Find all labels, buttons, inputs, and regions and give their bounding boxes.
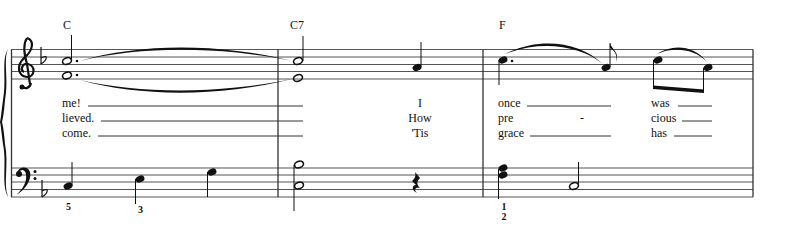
lyric-m3a-verse1: once bbox=[498, 97, 521, 109]
m3-treble-beamed-eighths bbox=[653, 55, 714, 93]
lyric-m3a-verse3: grace bbox=[498, 127, 524, 139]
lyric-m3b-verse2: cious bbox=[651, 112, 676, 124]
bass-staff bbox=[11, 168, 753, 197]
lyric-m3b-verse1: was bbox=[651, 97, 670, 109]
lyric-m2-verse2: How bbox=[408, 112, 431, 124]
fingering-2: 2 bbox=[499, 212, 509, 222]
chord-symbol-m3: F bbox=[499, 19, 506, 31]
bass-clef-icon bbox=[16, 168, 37, 195]
lyric-m1-verse2: lieved. bbox=[62, 112, 94, 124]
lyric-hyphen: - bbox=[580, 112, 584, 124]
lyric-m3a-verse2: pre bbox=[498, 112, 513, 124]
m1-bass-note-c bbox=[63, 162, 74, 191]
m1-treble-chord bbox=[62, 35, 79, 80]
m3-bass-half-note bbox=[569, 162, 580, 191]
tie-lower bbox=[80, 79, 292, 93]
m2-treble-chord bbox=[293, 36, 304, 83]
fingering-3: 3 bbox=[138, 205, 143, 215]
treble-staff bbox=[11, 50, 753, 80]
notation-canvas bbox=[0, 0, 804, 249]
slur-1 bbox=[505, 43, 603, 64]
grand-staff-brace bbox=[0, 49, 8, 197]
m3-bass-quarter-chord bbox=[498, 163, 509, 199]
lyric-m2-verse3: 'Tis bbox=[411, 127, 428, 139]
lyric-m1-verse1: me! bbox=[62, 97, 81, 109]
lyric-m3b-verse3: has bbox=[651, 127, 667, 139]
lyric-extenders bbox=[88, 106, 712, 136]
sheet-music-score: C C7 F me! lieved. come. I How 'Tis once… bbox=[0, 0, 804, 249]
fingering-stack-m3: 1 2 bbox=[499, 202, 509, 222]
m3-treble-eighth bbox=[601, 43, 618, 72]
fingering-5: 5 bbox=[66, 202, 71, 212]
chord-symbol-m2: C7 bbox=[290, 19, 304, 31]
treble-clef-icon bbox=[19, 38, 34, 90]
key-signature-flat-icon bbox=[42, 180, 47, 197]
lyric-m1-verse3: come. bbox=[62, 127, 91, 139]
chord-symbol-m1: C bbox=[63, 19, 71, 31]
m3-treble-dotted-quarter bbox=[498, 55, 514, 85]
lyric-m2-verse1: I bbox=[418, 97, 422, 109]
